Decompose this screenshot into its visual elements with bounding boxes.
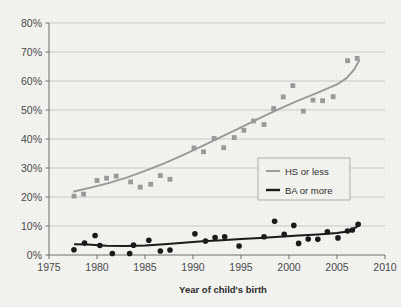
x-tick-label-1995: 1995 [229, 261, 253, 273]
data-point-series-0-12 [212, 136, 217, 141]
data-point-series-0-7 [148, 182, 153, 187]
data-point-series-1-24 [345, 228, 351, 234]
data-point-series-0-1 [81, 192, 86, 197]
data-point-series-0-15 [241, 128, 246, 133]
data-point-series-1-10 [192, 231, 198, 237]
x-tick-label-2010: 2010 [373, 261, 397, 273]
data-point-series-0-3 [104, 176, 109, 181]
data-point-series-0-16 [251, 119, 256, 124]
legend-label-hs-or-less[interactable]: HS or less [285, 166, 329, 177]
data-point-series-0-24 [331, 94, 336, 99]
data-point-series-1-19 [296, 241, 302, 247]
data-point-series-1-13 [222, 234, 228, 240]
data-point-series-1-18 [291, 223, 297, 229]
data-point-series-1-21 [315, 237, 321, 243]
data-point-series-0-21 [301, 109, 306, 114]
data-point-series-1-1 [82, 240, 88, 246]
x-tick-label-1980: 1980 [85, 261, 109, 273]
data-point-series-0-6 [138, 185, 143, 190]
scatter-chart-canvas: 0%10%20%30%40%50%60%70%80% 1975198019851… [0, 0, 401, 307]
x-tick-label-1975: 1975 [37, 261, 61, 273]
data-point-series-1-15 [261, 234, 267, 240]
legend[interactable]: HS or lessBA or more [258, 158, 350, 200]
x-tick-label-1990: 1990 [181, 261, 205, 273]
y-tick-label-0%: 0% [27, 249, 42, 261]
data-point-series-1-11 [203, 238, 209, 244]
chart-figure: 0%10%20%30%40%50%60%70%80% 1975198019851… [0, 0, 401, 307]
data-point-series-1-14 [236, 243, 242, 249]
y-tick-label-50%: 50% [21, 104, 42, 116]
data-point-series-1-9 [167, 247, 173, 253]
data-point-series-0-5 [128, 180, 133, 185]
data-point-series-1-8 [158, 248, 164, 254]
data-point-series-0-11 [201, 149, 206, 154]
data-point-series-1-5 [127, 251, 133, 257]
data-point-series-1-20 [305, 236, 311, 242]
y-tick-label-20%: 20% [21, 191, 42, 203]
data-point-series-1-26 [355, 221, 361, 227]
data-point-series-0-17 [262, 122, 267, 127]
data-point-series-0-22 [311, 98, 316, 103]
data-point-series-0-26 [355, 56, 360, 61]
data-point-series-0-10 [192, 146, 197, 151]
data-point-series-1-16 [272, 219, 278, 225]
data-point-series-0-18 [271, 106, 276, 111]
legend-label-ba-or-more[interactable]: BA or more [285, 185, 333, 196]
y-tick-label-10%: 10% [21, 220, 42, 232]
data-point-series-0-0 [72, 194, 77, 199]
y-tick-label-70%: 70% [21, 46, 42, 58]
data-point-series-0-9 [168, 177, 173, 182]
data-point-series-0-14 [232, 135, 237, 140]
y-tick-label-40%: 40% [21, 133, 42, 145]
data-point-series-1-2 [92, 233, 98, 239]
data-point-series-0-19 [281, 95, 286, 100]
data-point-series-1-17 [281, 232, 287, 238]
x-tick-label-1985: 1985 [133, 261, 157, 273]
data-point-series-0-13 [221, 145, 226, 150]
data-point-series-0-2 [95, 178, 100, 183]
x-axis-title: Year of child's birth [179, 284, 267, 295]
data-point-series-0-8 [158, 173, 163, 178]
data-point-series-1-25 [350, 227, 356, 233]
data-point-series-1-4 [110, 251, 116, 257]
data-point-series-0-25 [345, 58, 350, 63]
y-tick-label-80%: 80% [21, 17, 42, 29]
y-tick-label-30%: 30% [21, 162, 42, 174]
data-point-series-1-12 [212, 235, 218, 241]
y-axis-tick-labels: 0%10%20%30%40%50%60%70%80% [21, 17, 42, 261]
data-point-series-1-0 [71, 247, 77, 253]
x-tick-label-2005: 2005 [325, 261, 349, 273]
data-point-series-0-20 [290, 83, 295, 88]
y-tick-label-60%: 60% [21, 75, 42, 87]
data-point-series-0-4 [114, 174, 119, 179]
x-tick-label-2000: 2000 [277, 261, 301, 273]
data-point-series-1-7 [146, 237, 152, 243]
data-point-series-1-6 [131, 242, 137, 248]
data-point-series-1-3 [97, 243, 103, 249]
data-point-series-1-22 [325, 229, 331, 235]
data-point-series-1-23 [335, 235, 341, 241]
data-point-series-0-23 [320, 98, 325, 103]
